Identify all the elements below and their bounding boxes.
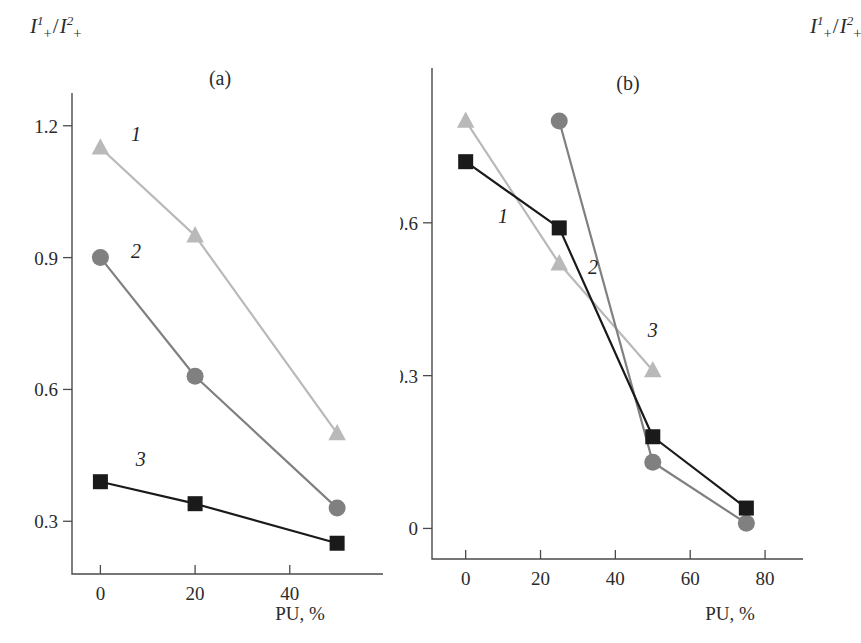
data-point-marker-2 [738,515,755,532]
y-tick-label: 0.9 [34,248,58,269]
panel-tag-label: (a) [209,67,231,90]
plot-area-panel-a: 0.30.60.91.202040PU, %(a)123 [0,0,400,643]
series-label-3: 3 [647,319,658,341]
x-tick-label: 20 [531,568,550,589]
y-tick-label: 1.2 [34,116,58,137]
y-tick-label: 0.3 [400,366,418,387]
x-axis-title: PU, % [705,603,755,624]
data-point-marker-3 [458,154,473,169]
series-line-1 [100,148,337,434]
y-axis-label-panel-b: I1+/I2+ [810,14,861,41]
x-tick-label: 80 [756,568,775,589]
x-tick-label: 40 [280,583,299,604]
data-point-marker-3 [552,220,567,235]
series-line-3 [100,482,337,544]
data-point-marker-3 [330,536,345,551]
series-label-3: 3 [135,448,146,470]
data-point-marker-1 [550,254,567,270]
plot-area-panel-b: 00.30.6020406080PU, %(b)123 [400,0,811,643]
data-point-marker-1 [92,138,109,154]
series-label-2: 2 [131,240,141,262]
x-tick-label: 60 [681,568,700,589]
y-label-denominator-symbol: I [840,14,847,38]
data-point-marker-3 [739,501,754,516]
y-label-denominator-sub: + [853,25,861,41]
data-point-marker-3 [188,496,203,511]
series-line-1 [466,121,653,371]
x-tick-label: 20 [186,583,205,604]
y-label-numerator-sub: + [824,25,832,41]
data-point-marker-2 [187,368,204,385]
data-point-marker-3 [93,474,108,489]
y-tick-label: 0 [409,518,419,539]
data-point-marker-1 [457,111,474,127]
x-tick-label: 40 [606,568,625,589]
series-label-1: 1 [131,123,141,145]
x-tick-label: 0 [96,583,106,604]
data-point-marker-2 [329,500,346,517]
axis-frame [432,68,803,559]
chart-panel-a: I1+/I2+ 0.30.60.91.202040PU, %(a)123 [0,0,400,643]
data-point-marker-3 [645,429,660,444]
data-point-marker-2 [92,249,109,266]
series-label-1: 1 [498,205,508,227]
y-tick-label: 0.6 [400,213,418,234]
y-tick-label: 0.3 [34,511,58,532]
x-axis-title: PU, % [275,603,325,624]
chart-panel-b: I1+/I2+ 00.30.6020406080PU, %(b)123 [400,0,811,643]
y-label-separator: / [832,14,840,38]
series-label-2: 2 [588,256,598,278]
y-tick-label: 0.6 [34,379,58,400]
panel-tag-label: (b) [616,72,639,95]
x-tick-label: 0 [461,568,471,589]
y-label-numerator-symbol: I [810,14,817,38]
data-point-marker-2 [644,454,661,471]
data-point-marker-2 [551,112,568,129]
